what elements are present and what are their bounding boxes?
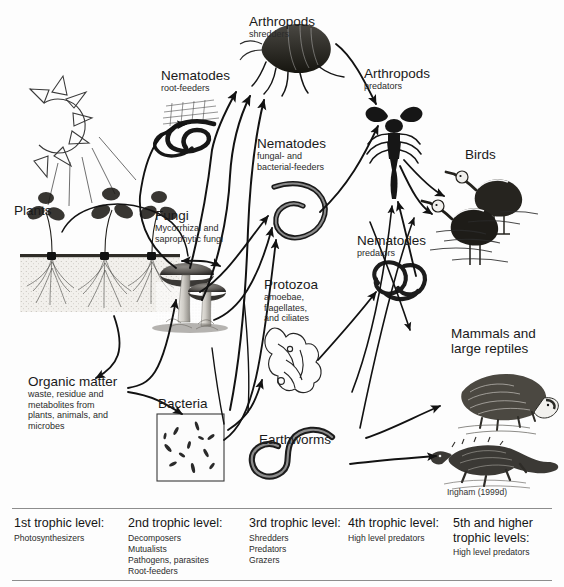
label-nematodes-rootfeeders: Nematodes root-feeders (161, 68, 230, 94)
legend-top-rule (12, 508, 552, 509)
label-subtext: predators (357, 248, 426, 259)
label-nematodes-predators: Nematodes predators (357, 233, 426, 259)
nematode-worm-icon (274, 184, 325, 238)
legend-item: Pathogens, parasites (128, 555, 253, 566)
label-organic-matter: Organic matter waste, residue and metabo… (28, 374, 117, 431)
arrow-plants-organic (96, 316, 120, 378)
nematode-coil-icon (155, 100, 219, 156)
connector-fungi-bacteria (212, 348, 224, 424)
label-nematodes-fungal-bacterial: Nematodes fungal- and bacterial-feeders (257, 136, 326, 172)
figure-credit: Ingham (1999d) (447, 487, 507, 497)
trophic-level-legend: 1st trophic level: Photosynthesizers 2nd… (0, 505, 564, 587)
label-text: Arthropods (364, 66, 430, 81)
label-subtext: waste, residue and (28, 389, 117, 400)
label-subtext: metabolites from (28, 400, 117, 411)
label-subtext: plants, animals, and (28, 410, 117, 421)
legend-items: High level predators (348, 533, 453, 544)
label-birds: Birds (465, 147, 496, 162)
legend-heading: 1st trophic level: (14, 516, 124, 531)
arrow-arthpred-birds (404, 160, 444, 196)
label-arthropods-shredders: Arthropods shredders (249, 14, 315, 40)
label-text: Birds (465, 147, 496, 162)
legend-column-2: 2nd trophic level: Decomposers Mutualist… (128, 516, 253, 577)
birds-icon (422, 171, 538, 265)
bacteria-icon (157, 414, 224, 481)
label-protozoa: Protozoa amoebae, flagellates, and cilia… (264, 277, 318, 324)
arrow-earthworm-mammals (366, 406, 440, 438)
legend-column-1: 1st trophic level: Photosynthesizers (14, 516, 124, 544)
label-text: Plants (14, 203, 52, 218)
label-text: Arthropods (249, 14, 315, 29)
legend-item: High level predators (453, 547, 558, 558)
legend-heading: 3rd trophic level: (249, 516, 349, 531)
label-subtext: shredders (249, 29, 315, 40)
soil-food-web-figure: Arthropods shredders Nematodes root-feed… (0, 0, 564, 587)
label-subtext: predators (364, 81, 430, 92)
legend-heading: 2nd trophic level: (128, 516, 253, 531)
label-subtext: flagellates, (264, 303, 318, 314)
legend-heading: 5th and higher (453, 516, 558, 531)
scorpion-icon (366, 107, 423, 199)
label-subtext: fungal- and (257, 151, 326, 162)
arrow-earthworm-reptile (350, 456, 436, 464)
label-earthworms: Earthworms (259, 432, 331, 447)
legend-item: Predators (249, 544, 349, 555)
label-fungi: Fungi Mycorrhizal and saprophytic fungi (155, 208, 223, 244)
legend-items: High level predators (453, 547, 558, 558)
legend-items: Decomposers Mutualists Pathogens, parasi… (128, 533, 253, 578)
label-text: Mammals and (451, 326, 536, 341)
legend-item: Root-feeders (128, 566, 253, 577)
legend-column-4: 4th trophic level: High level predators (348, 516, 453, 544)
label-text: Protozoa (264, 277, 318, 292)
label-text: Bacteria (158, 396, 208, 411)
legend-heading-2: trophic levels: (453, 531, 558, 546)
legend-items: Shredders Predators Grazers (249, 533, 349, 567)
label-subtext: amoebae, (264, 292, 318, 303)
label-mammals-reptiles: Mammals and large reptiles (451, 326, 536, 356)
label-subtext: bacterial-feeders (257, 162, 326, 173)
mushroom-icon (152, 263, 228, 333)
connector-vertical (244, 300, 249, 412)
badger-icon (458, 374, 558, 434)
label-subtext: saprophytic fungi (155, 234, 223, 245)
label-text: Nematodes (357, 233, 426, 248)
legend-item: High level predators (348, 533, 453, 544)
label-bacteria: Bacteria (158, 396, 208, 411)
label-text: Nematodes (161, 68, 230, 83)
label-text: Nematodes (257, 136, 326, 151)
label-subtext: Mycorrhizal and (155, 223, 223, 234)
label-subtext: root-feeders (161, 83, 230, 94)
legend-item: Shredders (249, 533, 349, 544)
legend-bottom-rule (12, 580, 552, 581)
legend-item: Grazers (249, 555, 349, 566)
legend-column-3: 3rd trophic level: Shredders Predators G… (249, 516, 349, 566)
label-arthropods-predators: Arthropods predators (364, 66, 430, 92)
label-text: Organic matter (28, 374, 117, 389)
arrow-protozoa-nempred (318, 292, 376, 360)
sun-icon (30, 76, 136, 206)
label-subtext: and ciliates (264, 313, 318, 324)
legend-item: Photosynthesizers (14, 533, 124, 544)
arrow-nemfb-arthpred (320, 126, 378, 212)
legend-item: Mutualists (128, 544, 253, 555)
label-plants: Plants (14, 203, 52, 218)
label-text: Fungi (155, 208, 223, 223)
legend-column-5: 5th and higher trophic levels: High leve… (453, 516, 558, 558)
amoeba-icon (265, 328, 321, 393)
legend-heading: 4th trophic level: (348, 516, 453, 531)
iguana-icon (431, 437, 559, 489)
label-subtext: microbes (28, 421, 117, 432)
legend-item: Decomposers (128, 533, 253, 544)
label-text: Earthworms (259, 432, 331, 447)
label-text: large reptiles (451, 341, 536, 356)
legend-items: Photosynthesizers (14, 533, 124, 544)
